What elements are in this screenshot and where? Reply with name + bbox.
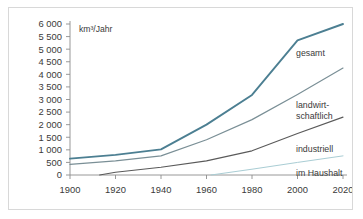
series-label-landwirtschaftlich: landwirt-schaftlich [296, 100, 333, 121]
y-tick-label: 5 000 [39, 44, 62, 55]
unit-label: km³/Jahr [79, 24, 113, 34]
y-tick-label: 1 500 [39, 132, 62, 143]
x-tick-label: 2020 [333, 184, 352, 195]
x-tick-label: 2000 [287, 184, 308, 195]
y-tick-label: 500 [46, 157, 62, 168]
y-tick-label: 1 000 [39, 144, 62, 155]
y-tick-label: 6 000 [39, 18, 62, 29]
x-tick-label: 1900 [60, 184, 81, 195]
y-tick-label: 3 500 [39, 81, 62, 92]
series-label-industriell: industriell [296, 144, 333, 154]
y-tick-label: 4 500 [39, 56, 62, 67]
y-tick-label: 4 000 [39, 69, 62, 80]
y-tick-label: 3 000 [39, 94, 62, 105]
y-tick-label: 2 000 [39, 119, 62, 130]
series-inline-labels: gesamtlandwirt-schaftlichindustriellim H… [296, 48, 343, 178]
y-tick-label: 2 500 [39, 106, 62, 117]
x-tick-label: 1980 [242, 184, 263, 195]
series-label-gesamt: gesamt [296, 48, 325, 58]
chart-container: 05001 0001 5002 0002 5003 0003 5004 0004… [8, 7, 353, 210]
y-axis-tick-marks [66, 24, 70, 175]
y-axis-tick-labels: 05001 0001 5002 0002 5003 0003 5004 0004… [39, 18, 62, 180]
line-chart: 05001 0001 5002 0002 5003 0003 5004 0004… [9, 8, 352, 209]
series-label-im-haushalt: im Haushalt [296, 168, 343, 178]
y-tick-label: 0 [57, 169, 62, 180]
y-tick-label: 5 500 [39, 31, 62, 42]
x-axis-tick-labels: 1900192019401960198020002020 [60, 184, 352, 195]
x-tick-label: 1920 [105, 184, 126, 195]
x-tick-label: 1960 [196, 184, 217, 195]
x-tick-label: 1940 [151, 184, 172, 195]
